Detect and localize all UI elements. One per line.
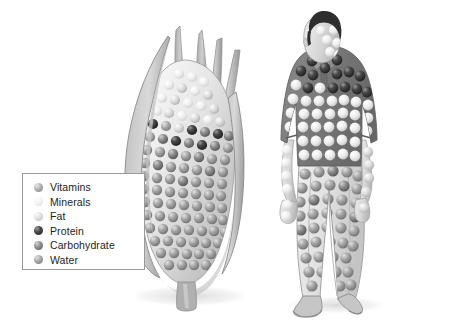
husk-leaf-front-right: [222, 92, 244, 274]
legend-item-vitamins[interactable]: Vitamins: [23, 180, 144, 195]
hand-right: [355, 198, 370, 222]
ear: [304, 38, 308, 46]
legend-label-minerals: Minerals: [50, 197, 90, 208]
hand-left: [280, 200, 297, 223]
husk-leaf-back-1: [197, 30, 208, 130]
shoe-left-sole: [293, 310, 322, 317]
shirt-spheres: [285, 51, 374, 162]
face: [304, 18, 340, 63]
trousers: [297, 164, 364, 300]
illustration-canvas: Vitamins Minerals Fat Protein Carbohydra…: [0, 0, 460, 328]
nutrient-legend: Vitamins Minerals Fat Protein Carbohydra…: [22, 173, 145, 270]
legend-item-water[interactable]: Water: [23, 253, 144, 268]
legend-item-carbohydrate[interactable]: Carbohydrate: [23, 238, 144, 253]
shoe-right: [338, 294, 363, 314]
trouser-crease-right: [348, 172, 350, 294]
arm-right-skin: [360, 140, 372, 202]
arm-left-skin: [282, 140, 297, 204]
shoe-left: [293, 296, 322, 317]
husk-leaf-back-4: [175, 26, 186, 128]
husk-leaf-back-2: [209, 38, 222, 134]
minerals-swatch-icon: [34, 197, 43, 206]
legend-item-protein[interactable]: Protein: [23, 224, 144, 239]
shirt-sleeve-hem-left: [286, 135, 297, 138]
trouser-spheres: [294, 165, 363, 291]
hair-sideburn: [307, 31, 311, 46]
husk-lower-wrap: [141, 212, 233, 296]
hair: [309, 11, 342, 40]
shirt: [281, 46, 377, 166]
legend-label-fat: Fat: [50, 211, 65, 222]
legend-label-water: Water: [50, 255, 78, 266]
corn-floor-shadow: [126, 285, 254, 307]
shirt-collar-right: [324, 52, 340, 70]
corn-stalk-highlight: [183, 284, 189, 308]
fat-swatch-icon: [34, 212, 43, 221]
trouser-inseam: [329, 190, 337, 296]
corn-stalk: [177, 282, 197, 311]
husk-leaf-front-left-inner: [146, 40, 170, 240]
legend-item-minerals[interactable]: Minerals: [23, 195, 144, 210]
legend-label-protein: Protein: [50, 226, 84, 237]
corn-kernels: [139, 69, 234, 270]
trouser-crease-left: [309, 172, 311, 292]
corn-cob-body: [139, 60, 235, 284]
shirt-placket: [321, 62, 327, 92]
vitamins-swatch-icon: [34, 183, 43, 192]
human-figure: [280, 11, 377, 317]
water-swatch-icon: [34, 255, 43, 264]
artwork-svg: [0, 0, 460, 328]
carbohydrate-swatch-icon: [34, 241, 43, 250]
legend-label-carbohydrate: Carbohydrate: [50, 240, 115, 251]
protein-swatch-icon: [34, 226, 43, 235]
human-floor-shadow: [282, 296, 390, 314]
neck: [314, 58, 332, 72]
shoe-right-sole: [349, 311, 362, 314]
legend-label-vitamins: Vitamins: [50, 182, 91, 193]
face-spheres: [316, 25, 344, 60]
legend-item-fat[interactable]: Fat: [23, 209, 144, 224]
husk-leaf-back-3: [219, 50, 240, 140]
shirt-sleeve-hem-right: [360, 135, 371, 138]
arm-spheres: [281, 145, 374, 221]
shirt-collar-left: [307, 52, 323, 70]
